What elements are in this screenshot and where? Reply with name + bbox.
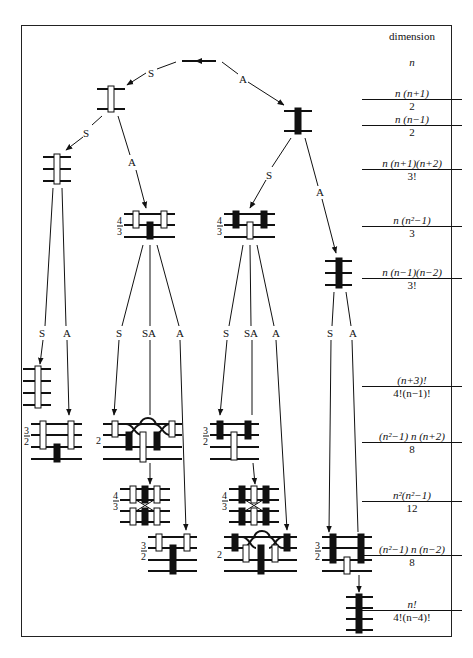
dim-asym2: n (n−1)2	[362, 113, 462, 138]
node-sym3	[43, 154, 71, 184]
node-mixed4c-1: 3 2	[141, 534, 197, 574]
dim-sym2: n (n+1)2	[362, 87, 462, 112]
node-sym2	[97, 86, 125, 112]
edges-to-mixed4b	[150, 463, 255, 484]
svg-text:2: 2	[217, 549, 222, 560]
svg-text:A: A	[316, 186, 324, 198]
dim-mixed4c: (n²−1) n (n−2)8	[362, 543, 462, 568]
svg-text:3: 3	[222, 501, 227, 512]
node-asym3	[325, 258, 352, 288]
dim-asym4: n!4!(n−4)!	[362, 598, 462, 623]
node-asym2	[284, 108, 312, 134]
svg-text:2: 2	[96, 435, 101, 446]
svg-text:2: 2	[203, 436, 208, 447]
edges-level1: S A	[127, 62, 284, 105]
svg-text:A: A	[63, 327, 71, 339]
dim-sym4: (n+3)!4!(n−1)!	[362, 374, 462, 399]
svg-text:4: 4	[217, 215, 222, 226]
svg-text:4: 4	[222, 490, 227, 501]
svg-text:3: 3	[217, 226, 222, 237]
svg-text:4: 4	[117, 215, 122, 226]
dim-sym3: n (n+1)(n+2)3!	[362, 157, 462, 182]
svg-text:3: 3	[113, 501, 118, 512]
dim-mixed4a: (n²−1) n (n+2)8	[362, 430, 462, 455]
svg-text:A: A	[272, 327, 280, 339]
node-mixed4a-1: 3 2	[24, 421, 82, 462]
node-mixed4a-3: 3 2	[203, 421, 259, 460]
svg-text:3: 3	[203, 425, 208, 436]
node-sym4	[23, 366, 51, 408]
node-mixed4c-2: 2	[217, 531, 297, 574]
dim-mixed3: n (n²−1)3	[362, 214, 462, 239]
svg-text:2: 2	[141, 551, 146, 562]
node-mixed3-b: 4 3	[217, 211, 275, 239]
svg-text:3: 3	[141, 540, 146, 551]
svg-text:S: S	[39, 327, 45, 339]
node-mixed4b-2: 4 3	[222, 486, 279, 525]
dim-rank1: n	[362, 56, 462, 68]
node-mixed3-a: 4 3	[117, 211, 175, 239]
svg-text:S: S	[223, 327, 229, 339]
svg-text:A: A	[176, 327, 184, 339]
dimension-header: dimension	[362, 30, 462, 42]
edges-level3: S A S SA A S SA A S A	[39, 188, 358, 532]
svg-text:3: 3	[315, 540, 320, 551]
svg-text:A: A	[349, 327, 357, 339]
edge-label-a: A	[239, 73, 247, 85]
svg-text:SA: SA	[244, 327, 258, 339]
svg-text:3: 3	[117, 226, 122, 237]
dim-mixed4b: n²(n²−1)12	[362, 489, 462, 514]
svg-text:S: S	[266, 169, 272, 181]
node-mixed4b-1: 4 3	[113, 486, 170, 525]
svg-text:3: 3	[24, 425, 29, 436]
edges-sym2: S A	[66, 116, 146, 208]
dim-asym3: n (n−1)(n−2)3!	[362, 266, 462, 291]
edges-asym2: S A	[250, 138, 336, 253]
node-mixed4a-2: 2	[96, 418, 182, 462]
svg-text:2: 2	[315, 551, 320, 562]
svg-text:S: S	[327, 327, 333, 339]
svg-text:SA: SA	[142, 327, 156, 339]
edge-label-s: S	[148, 67, 154, 79]
svg-text:S: S	[83, 127, 89, 139]
node-rank1	[182, 58, 216, 64]
svg-text:2: 2	[24, 436, 29, 447]
svg-text:S: S	[116, 327, 122, 339]
svg-text:A: A	[128, 156, 136, 168]
svg-text:4: 4	[113, 490, 118, 501]
